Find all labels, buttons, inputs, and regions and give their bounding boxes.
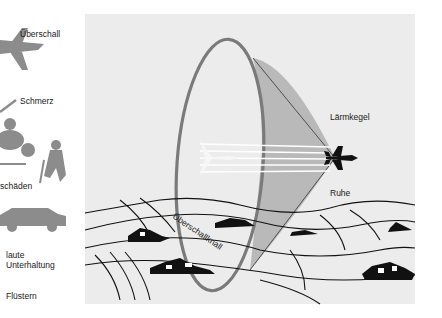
quiet-label: Ruhe	[330, 189, 350, 199]
pointer-line-icon	[0, 100, 16, 112]
scale-label-supersonic: Überschall	[20, 30, 60, 40]
motorbike-rider-icon	[0, 118, 35, 157]
scale-label-conversation: Unterhaltung	[6, 261, 55, 271]
jackhammer-worker-icon	[40, 140, 66, 183]
scale-label-pain: Schmerz	[20, 97, 54, 107]
scale-label-whisper: Flüstern	[6, 292, 37, 302]
cone-label: Lärmkegel	[330, 113, 370, 123]
car-icon	[0, 208, 66, 232]
hills	[85, 198, 415, 304]
scale-label-damage: schäden	[0, 182, 32, 192]
sonic-boom-illustration	[0, 0, 442, 318]
